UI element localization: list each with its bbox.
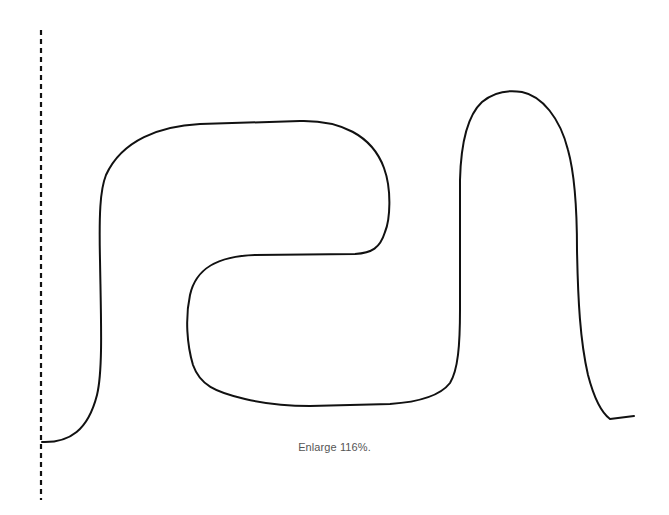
figure-caption: Enlarge 116%. (0, 441, 669, 453)
serpentine-diagram (0, 0, 669, 515)
serpentine-curve (42, 91, 634, 442)
